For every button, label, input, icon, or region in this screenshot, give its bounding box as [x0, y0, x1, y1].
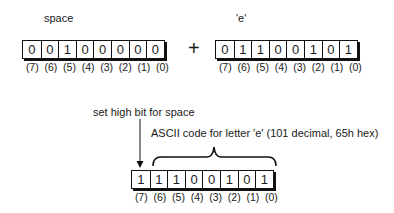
bit-1: 0: [238, 171, 256, 188]
bit-2: 1: [220, 171, 238, 188]
bit-index: (7): [132, 192, 151, 203]
bit-index: (1): [244, 192, 263, 203]
bit-index: (6): [151, 192, 170, 203]
down-arrow-icon: [137, 119, 144, 168]
bit-0: 1: [255, 171, 273, 188]
bit-index: (5): [169, 192, 188, 203]
bit-6: 1: [150, 171, 168, 188]
result-register: 1 1 1 0 0 1 0 1: [131, 170, 274, 189]
bit-index: (3): [206, 192, 225, 203]
bit-4: 0: [185, 171, 203, 188]
bit-index: (2): [225, 192, 244, 203]
curly-brace-icon: [153, 147, 276, 166]
bit-7: 1: [132, 171, 150, 188]
bit-index: (4): [188, 192, 207, 203]
bit-5: 1: [167, 171, 185, 188]
result-register-indices: (7) (6) (5) (4) (3) (2) (1) (0): [132, 192, 281, 203]
bit-index: (0): [262, 192, 281, 203]
bit-3: 0: [202, 171, 220, 188]
